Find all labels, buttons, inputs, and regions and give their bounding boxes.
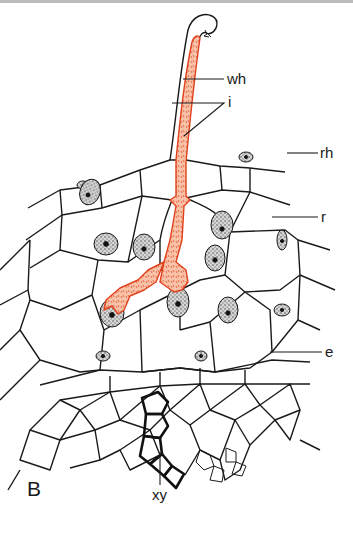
label-r: r	[321, 209, 326, 224]
panel-letter: B	[27, 478, 41, 499]
label-xy: xy	[152, 487, 167, 502]
nucleus	[218, 297, 238, 323]
label-wh: wh	[227, 71, 246, 86]
label-e: e	[325, 344, 333, 359]
root-cross-section-diagram	[0, 0, 353, 548]
label-rh: rh	[320, 145, 333, 160]
xylem-vessels	[140, 392, 184, 488]
nucleus	[211, 211, 233, 239]
label-i: i	[228, 94, 231, 109]
infection-hypha	[104, 36, 200, 314]
